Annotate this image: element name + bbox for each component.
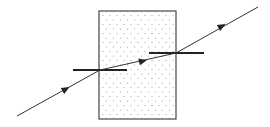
diagram-canvas <box>0 0 270 127</box>
refraction-diagram <box>0 0 270 127</box>
glass-block-dot-pattern <box>99 11 176 119</box>
glass-block <box>99 11 176 119</box>
incident-arrow-icon <box>61 84 71 94</box>
emergent-ray <box>176 7 258 53</box>
incident-ray <box>17 70 100 116</box>
